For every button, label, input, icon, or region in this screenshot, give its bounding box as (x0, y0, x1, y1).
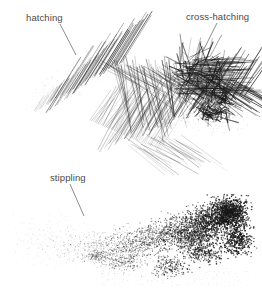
annotation-label-cross-hatching: cross-hatching (186, 11, 249, 22)
figure-canvas: hatching cross-hatching stippling (0, 0, 262, 293)
canvas-background (0, 0, 262, 293)
shading-techniques-figure: hatching cross-hatching stippling (0, 0, 262, 293)
annotation-label-stippling: stippling (50, 172, 86, 183)
annotation-label-hatching: hatching (26, 12, 63, 23)
